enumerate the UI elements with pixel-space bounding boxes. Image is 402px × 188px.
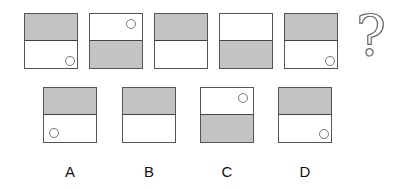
box-top-half: [285, 14, 337, 41]
option-box-a[interactable]: [43, 87, 97, 143]
sequence-box-2: [89, 13, 143, 69]
option-box-d[interactable]: [278, 87, 332, 143]
box-bottom-half: [201, 115, 253, 142]
circle-icon: [325, 56, 335, 66]
sequence-box-4: [219, 13, 273, 69]
option-label-a: A: [43, 163, 97, 180]
box-bottom-half: [90, 41, 142, 68]
box-bottom-half: [155, 41, 207, 68]
option-box-b[interactable]: [122, 87, 176, 143]
box-top-half: [279, 88, 331, 115]
circle-icon: [238, 93, 248, 103]
box-top-half: [155, 14, 207, 41]
circle-icon: [126, 19, 136, 29]
box-top-half: [25, 14, 77, 41]
box-top-half: [123, 88, 175, 115]
option-label-c: C: [200, 163, 254, 180]
option-label-b: B: [122, 163, 176, 180]
box-bottom-half: [220, 41, 272, 68]
sequence-box-1: [24, 13, 78, 69]
sequence-box-3: [154, 13, 208, 69]
box-top-half: [220, 14, 272, 41]
question-mark-icon: ?: [356, 8, 386, 64]
circle-icon: [49, 128, 59, 138]
sequence-box-5: [284, 13, 338, 69]
circle-icon: [65, 56, 75, 66]
option-box-c[interactable]: [200, 87, 254, 143]
box-bottom-half: [123, 115, 175, 142]
circle-icon: [319, 129, 329, 139]
option-label-d: D: [278, 163, 332, 180]
box-top-half: [44, 88, 96, 115]
